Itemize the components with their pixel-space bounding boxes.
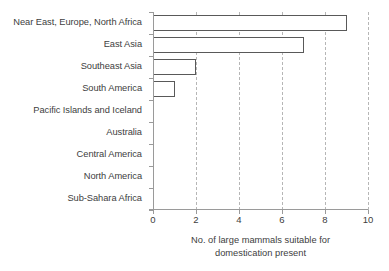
bar-row <box>153 78 368 100</box>
x-axis-tick-label: 0 <box>150 214 155 225</box>
category-label: Southeast Asia <box>0 56 148 78</box>
bar-chart: Near East, Europe, North Africa East Asi… <box>0 0 389 271</box>
bar-row <box>153 188 368 210</box>
x-axis-tick-label: 2 <box>193 214 198 225</box>
x-axis-title-line-2: domestication present <box>153 247 368 260</box>
bar-series <box>153 12 368 210</box>
x-axis-tick-label: 4 <box>236 214 241 225</box>
category-label: East Asia <box>0 34 148 56</box>
y-axis-tick <box>149 166 153 167</box>
x-axis-tick-labels: 0246810 <box>153 214 368 228</box>
y-axis-tick <box>149 78 153 79</box>
y-axis-line <box>153 12 154 210</box>
y-axis-tick <box>149 56 153 57</box>
category-label: North America <box>0 166 148 188</box>
x-axis-tick-label: 10 <box>363 214 374 225</box>
bar-row <box>153 34 368 56</box>
category-label: Near East, Europe, North Africa <box>0 12 148 34</box>
bar-row <box>153 122 368 144</box>
y-axis-tick <box>149 188 153 189</box>
category-label: South America <box>0 78 148 100</box>
bar[interactable] <box>153 59 196 76</box>
x-axis-tick-label: 6 <box>279 214 284 225</box>
y-axis-tick <box>149 100 153 101</box>
gridline <box>368 12 369 210</box>
bar[interactable] <box>153 37 304 54</box>
category-label: Central America <box>0 144 148 166</box>
bar[interactable] <box>153 15 347 32</box>
bar-row <box>153 144 368 166</box>
category-label: Sub-Sahara Africa <box>0 188 148 210</box>
x-axis-title-line-1: No. of large mammals suitable for <box>153 234 368 247</box>
x-axis-title: No. of large mammals suitable for domest… <box>153 234 368 260</box>
bar-row <box>153 100 368 122</box>
y-axis-tick <box>149 34 153 35</box>
bar-row <box>153 56 368 78</box>
category-label: Pacific Islands and Iceland <box>0 100 148 122</box>
bar-row <box>153 166 368 188</box>
bar[interactable] <box>153 81 175 98</box>
y-axis-tick <box>149 144 153 145</box>
x-axis-line <box>149 209 368 210</box>
y-axis-category-labels: Near East, Europe, North Africa East Asi… <box>0 12 148 210</box>
plot-area <box>153 12 368 210</box>
bar-row <box>153 12 368 34</box>
category-label: Australia <box>0 122 148 144</box>
x-axis-tick-label: 8 <box>322 214 327 225</box>
y-axis-tick <box>149 12 153 13</box>
y-axis-tick <box>149 122 153 123</box>
